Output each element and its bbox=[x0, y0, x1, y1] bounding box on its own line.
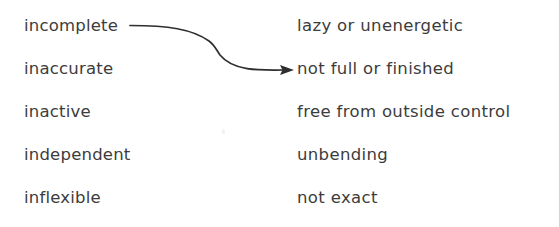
term-item[interactable]: inaccurate bbox=[24, 57, 113, 81]
definition-item[interactable]: not exact bbox=[297, 186, 378, 210]
definition-item[interactable]: not full or finished bbox=[297, 57, 454, 81]
term-item[interactable]: incomplete bbox=[24, 14, 118, 38]
definition-item[interactable]: unbending bbox=[297, 143, 388, 167]
definition-item[interactable]: lazy or unenergetic bbox=[297, 14, 463, 38]
term-item[interactable]: inflexible bbox=[24, 186, 101, 210]
matching-worksheet: incomplete inaccurate inactive independe… bbox=[0, 0, 559, 227]
definition-item[interactable]: free from outside control bbox=[297, 100, 510, 124]
terms-column: incomplete inaccurate inactive independe… bbox=[24, 0, 274, 227]
definitions-column: lazy or unenergetic not full or finished… bbox=[297, 0, 552, 227]
term-item[interactable]: inactive bbox=[24, 100, 91, 124]
match-arrow-head bbox=[280, 65, 294, 75]
term-item[interactable]: independent bbox=[24, 143, 131, 167]
paper-speck bbox=[222, 129, 225, 134]
